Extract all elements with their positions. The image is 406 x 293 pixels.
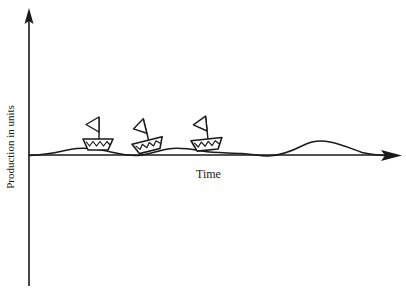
chart-canvas — [0, 0, 406, 293]
y-axis-label: Production in units — [0, 0, 20, 293]
sailboat-3 — [189, 115, 223, 152]
sailboat-sail-icon — [132, 119, 147, 136]
sailboat-1 — [83, 117, 113, 150]
sailboat-2 — [127, 115, 165, 155]
x-axis-label: Time — [196, 167, 221, 182]
production-over-time-figure: Production in units Time — [0, 0, 406, 293]
sailboat-hull-icon — [132, 137, 165, 155]
sailboat-sail-icon — [193, 116, 207, 132]
sailboat-sail-icon — [86, 117, 99, 132]
y-axis-label-text: Production in units — [4, 105, 16, 189]
